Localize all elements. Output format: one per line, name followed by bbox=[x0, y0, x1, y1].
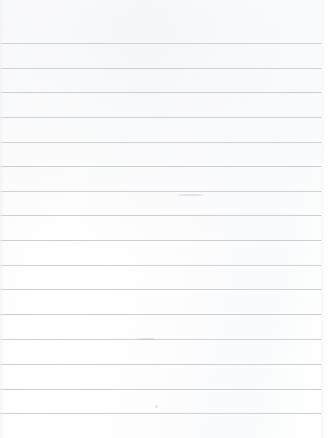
writing-area[interactable] bbox=[0, 43, 322, 414]
ruled-paper-sheet bbox=[0, 0, 328, 438]
